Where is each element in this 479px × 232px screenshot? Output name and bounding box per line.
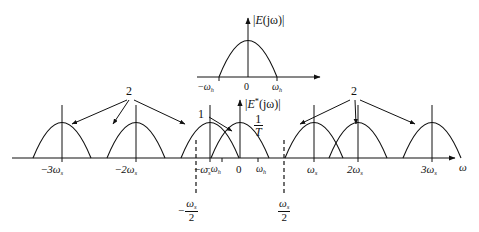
arrow-left-c (134, 100, 185, 124)
arrow-right-b (355, 100, 356, 124)
callout-left-2: 2 (126, 85, 132, 97)
replica-center-stems (62, 105, 432, 158)
bot-title-arg: (jω) (259, 97, 278, 111)
bottom-plot-title: |E*(jω)| (245, 98, 281, 110)
bottom-axis-ticks (62, 158, 432, 162)
top-plot-title: |E(jω)| (253, 14, 284, 26)
top-title-arg: (jω) (263, 13, 282, 27)
arrow-right-c (360, 100, 415, 124)
amplitude-1-over-T: 1 T (254, 113, 263, 138)
bot-title-bar-close: | (278, 97, 280, 111)
tick-label-pos-ws: ωs (307, 164, 317, 177)
label-neg-half-ws: − ωs 2 (178, 198, 198, 223)
top-title-bar-close: | (282, 13, 284, 27)
tick-label-pos-3ws: 3ωs (421, 164, 437, 177)
x-axis-label-omega: ω (459, 162, 467, 173)
callout-center-1: 1 (198, 108, 204, 120)
figure-canvas (0, 0, 479, 232)
tick-label-neg-2ws: −2ωs (115, 164, 137, 177)
bot-title-E: E (247, 97, 254, 111)
arrow-center-1 (209, 117, 232, 131)
tick-label-neg-3ws: −3ωs (41, 164, 63, 177)
tick-label-pos-wh: ωh (256, 164, 266, 175)
top-tick-label-neg-wh: −ωh (198, 82, 214, 93)
amplitude-numerator: 1 (254, 113, 263, 126)
top-tick-label-zero: 0 (244, 82, 249, 92)
amplitude-denominator: T (254, 126, 263, 138)
tick-label-zero: 0 (236, 164, 242, 175)
label-pos-half-ws: ωs 2 (278, 198, 290, 223)
spectrum-replicas (33, 123, 461, 159)
tick-label-pos-2ws: 2ωs (347, 164, 363, 177)
arrow-left-a (72, 100, 127, 124)
arrow-left-b (113, 100, 129, 124)
top-tick-label-pos-wh: ωh (272, 82, 282, 93)
top-plot-group (197, 18, 320, 81)
callout-arrows (72, 100, 415, 131)
arrow-right-a (300, 100, 350, 124)
callout-right-2: 2 (351, 85, 357, 97)
sampled-spectrum-figure: |E(jω)| −ωh 0 ωh |E*(jω)| 1 T −3ωs −2ωs … (0, 0, 479, 232)
tick-label-neg-wh: −ωh (205, 164, 221, 175)
top-title-E: E (255, 13, 262, 27)
